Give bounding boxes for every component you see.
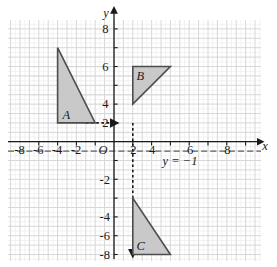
x-tick-label-neg6: -6 — [33, 143, 43, 157]
y-tick-label-neg2: -2 — [100, 173, 110, 187]
y-tick-label-neg6: -6 — [100, 229, 110, 243]
coordinate-plane-svg: -8 -6 -4 -2 2 4 6 8 8 6 4 2 -2 -4 -6 -8 … — [0, 0, 277, 267]
x-tick-label-8: 8 — [224, 143, 230, 157]
reference-line-label: y = −1 — [161, 154, 198, 168]
y-tick-label-4: 4 — [102, 97, 109, 111]
triangle-b-label: B — [137, 69, 145, 83]
y-tick-label-neg4: -4 — [100, 210, 111, 224]
triangle-a-label: A — [62, 108, 71, 122]
x-tick-label-neg8: -8 — [14, 143, 24, 157]
x-tick-label-4: 4 — [149, 143, 156, 157]
triangle-c-label: C — [137, 239, 146, 253]
x-tick-label-neg2: -2 — [71, 143, 81, 157]
y-tick-label-8: 8 — [102, 22, 108, 36]
y-axis-name: y — [101, 6, 109, 20]
x-axis-name: x — [261, 139, 268, 153]
coordinate-plane-figure: -8 -6 -4 -2 2 4 6 8 8 6 4 2 -2 -4 -6 -8 … — [0, 0, 277, 267]
origin-label: O — [98, 143, 107, 157]
x-tick-label-neg4: -4 — [52, 143, 63, 157]
y-tick-label-neg8: -8 — [100, 248, 110, 262]
y-tick-label-6: 6 — [102, 60, 108, 74]
